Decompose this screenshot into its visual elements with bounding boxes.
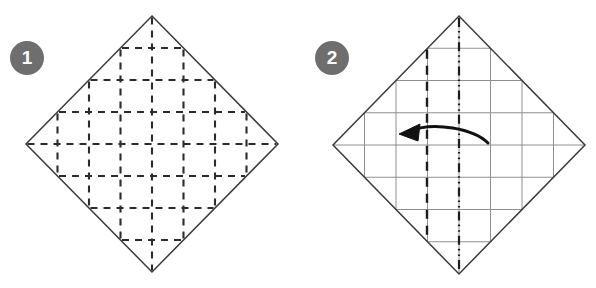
step-2-figure <box>298 0 596 288</box>
cutoff-marks <box>0 282 596 288</box>
origami-diagram: 1 2 <box>0 0 596 288</box>
step-panel-1: 1 <box>0 0 298 288</box>
page-bottom-cutoff-strip <box>0 278 596 288</box>
step-panel-2: 2 <box>298 0 596 288</box>
arrow-head <box>399 124 420 141</box>
step-badge-2: 2 <box>315 41 349 75</box>
arrow-shaft <box>410 127 488 143</box>
crease-grid-dashed <box>28 18 277 271</box>
step-badge-1: 1 <box>10 41 44 75</box>
fold-direction-arrow <box>399 124 488 143</box>
step-1-figure <box>0 0 298 288</box>
